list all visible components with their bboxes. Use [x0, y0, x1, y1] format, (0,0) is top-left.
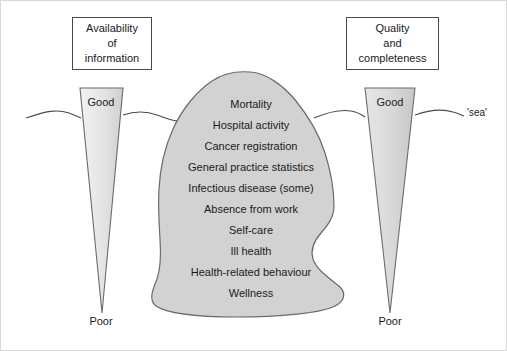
quality-caption-box: Quality and completeness: [346, 17, 439, 70]
right-quality-triangle: [365, 88, 415, 313]
left-availability-triangle: [80, 88, 123, 313]
iceberg-item: Ill health: [156, 241, 346, 262]
iceberg-item: Absence from work: [156, 199, 346, 220]
availability-caption-line-1: Availability: [86, 21, 138, 36]
iceberg-item: Infectious disease (some): [156, 178, 346, 199]
availability-caption-box: Availability of information: [72, 17, 152, 70]
diagram-canvas: Availability of information Quality and …: [0, 0, 507, 351]
iceberg-item: Self-care: [156, 220, 346, 241]
sea-label: 'sea': [467, 107, 487, 118]
iceberg-item: Wellness: [156, 283, 346, 304]
availability-caption-line-3: information: [85, 51, 139, 66]
quality-caption-line-2: and: [383, 36, 401, 51]
iceberg-item: Mortality: [156, 94, 346, 115]
quality-caption-line-3: completeness: [359, 51, 427, 66]
iceberg-item: Cancer registration: [156, 136, 346, 157]
right-scale-good-label: Good: [360, 96, 420, 108]
left-scale-poor-label: Poor: [71, 315, 131, 327]
sea-line-right: [415, 110, 464, 116]
left-scale-good-label: Good: [71, 96, 131, 108]
iceberg-item: Health-related behaviour: [156, 262, 346, 283]
right-scale-poor-label: Poor: [360, 315, 420, 327]
iceberg-item: Hospital activity: [156, 115, 346, 136]
iceberg-item-list: Mortality Hospital activity Cancer regis…: [156, 94, 346, 304]
quality-caption-line-1: Quality: [375, 21, 409, 36]
availability-caption-line-2: of: [107, 36, 116, 51]
iceberg-item: General practice statistics: [156, 157, 346, 178]
sea-line-left: [26, 111, 81, 118]
